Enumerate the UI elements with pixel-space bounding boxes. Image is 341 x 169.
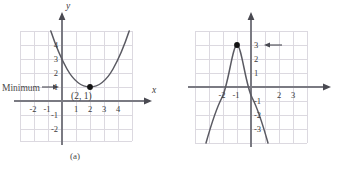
y-tick-b-0: 3 <box>254 40 258 50</box>
y-axis-arrow-b <box>248 12 255 20</box>
x-tick-b-0: -2 <box>218 90 225 100</box>
y-tick-b-3: -1 <box>254 96 261 106</box>
vertex-label-a: (2, 1) <box>71 91 92 101</box>
figure-container: -2 -1 1 2 3 4 4 3 2 1 -1 -2 Minimum (2, … <box>0 0 341 169</box>
x-tick-b-1: -1 <box>232 90 239 100</box>
caption-a: (a) <box>70 151 80 161</box>
y-tick-b-2: 1 <box>254 68 258 78</box>
x-axis-arrow-b <box>323 84 331 91</box>
vertex-point-a <box>87 84 93 90</box>
x-tick-labels-a: -2 -1 1 2 3 4 <box>29 104 120 114</box>
y-tick-b-1: 2 <box>254 54 258 64</box>
y-tick-b-4: -2 <box>254 110 261 120</box>
y-tick-a-4: -1 <box>51 110 58 120</box>
x-tick-a-5: 4 <box>116 104 121 114</box>
x-tick-a-4: 3 <box>102 104 106 114</box>
y-tick-b-5: -3 <box>254 124 261 134</box>
y-tick-a-3: 1 <box>54 82 58 92</box>
x-axis-name-a: x <box>152 85 156 95</box>
x-tick-b-2: 2 <box>277 90 281 100</box>
panel-a: -2 -1 1 2 3 4 4 3 2 1 -1 -2 Minimum (2, … <box>0 0 170 169</box>
y-tick-a-1: 3 <box>54 54 58 64</box>
x-axis-arrow-a <box>144 98 152 105</box>
vertex-point-b <box>234 42 240 48</box>
y-axis-arrow-a <box>59 12 66 20</box>
x-tick-b-3: 3 <box>291 90 295 100</box>
y-axis-name-a: y <box>66 1 70 11</box>
panel-b: -2 -1 2 3 3 2 1 -1 -2 -3 Maximum (–1, 3)… <box>170 0 341 169</box>
minimum-annotation-label: Minimum <box>2 83 40 93</box>
y-tick-a-2: 2 <box>54 68 58 78</box>
x-tick-a-2: 1 <box>74 104 78 114</box>
x-tick-a-1: -1 <box>43 104 50 114</box>
x-tick-a-0: -2 <box>29 104 36 114</box>
panel-b-plot: -2 -1 2 3 3 2 1 -1 -2 -3 <box>170 0 341 169</box>
x-tick-a-3: 2 <box>88 104 92 114</box>
y-tick-a-5: -2 <box>51 124 58 134</box>
